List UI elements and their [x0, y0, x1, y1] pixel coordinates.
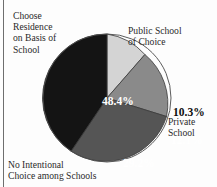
category-label-public-school-of-choice: Public School of Choice — [128, 25, 182, 47]
pie-graphic: 48.4% 10.3% 12.1% 29.2% — [42, 33, 172, 163]
slice-value-no-intentional-choice: 29.2% — [123, 158, 155, 170]
category-label-private-school: Private School — [168, 116, 195, 138]
slice-value-choose-residence: 48.4% — [102, 96, 134, 108]
category-label-no-intentional-choice: No Intentional Choice among Schools — [8, 159, 96, 181]
category-label-choose-residence: Choose Residence on Basis of School — [13, 10, 56, 55]
left-border-rule — [3, 0, 4, 187]
pie-chart-figure: 48.4% 10.3% 12.1% 29.2% Choose Residence… — [0, 0, 217, 187]
